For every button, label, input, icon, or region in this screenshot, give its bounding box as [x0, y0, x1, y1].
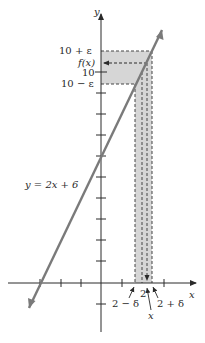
label-2-plus-delta: 2 + δ — [157, 299, 184, 309]
label-2-minus-delta: 2 − δ — [112, 299, 139, 309]
delta-band — [135, 51, 152, 283]
label-10: 10 — [82, 68, 95, 78]
diagram-canvas — [0, 0, 205, 343]
x-axis-label: x — [189, 290, 195, 300]
label-10-minus-epsilon: 10 − ε — [61, 79, 94, 89]
equation-label: y = 2x + 6 — [25, 180, 79, 190]
label-2: 2 — [140, 289, 146, 299]
y-axis-label: y — [94, 7, 100, 17]
epsilon-delta-diagram: y x 10 + ε f(x) 10 10 − ε y = 2x + 6 2 −… — [0, 0, 205, 343]
label-10-plus-epsilon: 10 + ε — [59, 46, 92, 56]
x-axis — [8, 279, 196, 287]
label-x-point: x — [148, 311, 154, 321]
